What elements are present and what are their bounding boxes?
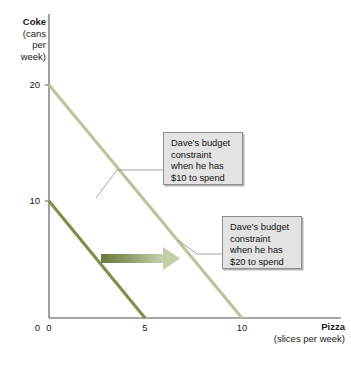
leader-line-callout-10-b [96, 170, 117, 198]
x-tick-label-10: 10 [229, 322, 255, 333]
y-axis-title-sub: (cans per week) [0, 28, 46, 63]
x-axis-title-main: Pizza [240, 321, 345, 333]
y-axis-title: Coke (cans per week) [0, 16, 46, 62]
budget-line-20 [49, 85, 242, 318]
x-tick-label-5: 5 [132, 322, 158, 333]
y-tick-label-10: 10 [14, 195, 40, 206]
chart-figure: Coke (cans per week) Pizza (slices per w… [0, 0, 351, 367]
x-axis-title: Pizza (slices per week) [240, 321, 345, 344]
x-tick-label-0: 0 [36, 322, 62, 333]
x-axis-title-sub: (slices per week) [240, 333, 345, 345]
shift-arrow [101, 247, 180, 270]
y-tick-label-20: 20 [14, 79, 40, 90]
y-axis-title-main: Coke [0, 16, 46, 28]
callout-budget-constraint-20: Dave's budget constraint when he has $20… [222, 216, 302, 269]
callout-budget-constraint-10: Dave's budget constraint when he has $10… [163, 132, 243, 185]
